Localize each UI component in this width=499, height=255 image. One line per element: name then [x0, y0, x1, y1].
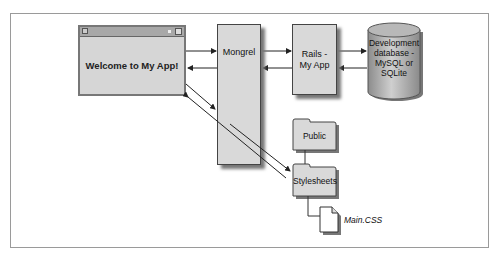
- window-restore-icon[interactable]: [168, 30, 171, 33]
- window-minimize-icon[interactable]: [82, 28, 88, 34]
- database-label-line2: database -: [367, 48, 421, 58]
- browser-window: Welcome to My App!: [78, 25, 186, 96]
- public-folder-label: Public: [293, 131, 336, 141]
- mongrel-box: Mongrel: [217, 24, 261, 165]
- mongrel-label: Mongrel: [223, 47, 256, 58]
- rails-label-line2: My App: [299, 60, 329, 71]
- stylesheets-folder-label: Stylesheets: [293, 176, 336, 186]
- rails-label-line1: Rails -: [302, 49, 328, 60]
- database-label-line3: MySQL or: [367, 58, 421, 68]
- css-file-icon: [320, 207, 341, 235]
- window-welcome-text: Welcome to My App!: [80, 36, 184, 94]
- database-label: Development database - MySQL or SQLite: [367, 38, 421, 78]
- window-maximize-icon[interactable]: [175, 28, 182, 35]
- css-file-label: Main.CSS: [344, 215, 382, 225]
- rails-app-box: Rails - My App: [292, 24, 337, 95]
- database-label-line1: Development: [367, 38, 421, 48]
- database-label-line4: SQLite: [367, 68, 421, 78]
